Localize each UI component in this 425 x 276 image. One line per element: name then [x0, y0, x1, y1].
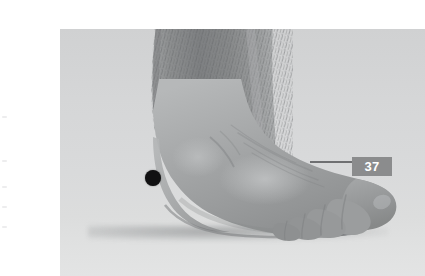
margin-artifact-mark — [2, 116, 7, 118]
margin-artifact-mark — [2, 160, 7, 162]
margin-bleed-artifacts — [0, 0, 18, 272]
margin-artifact-mark — [2, 206, 7, 208]
margin-artifact-mark — [2, 226, 7, 228]
acupoint-dot-marker — [145, 170, 161, 186]
page-number-badge: 37 — [352, 157, 392, 176]
page-number-label: 37 — [364, 160, 379, 173]
leg-and-foot-illustration — [60, 29, 425, 276]
margin-artifact-mark — [2, 186, 7, 188]
figure-photograph — [60, 29, 425, 276]
page-number-rule — [310, 161, 353, 163]
